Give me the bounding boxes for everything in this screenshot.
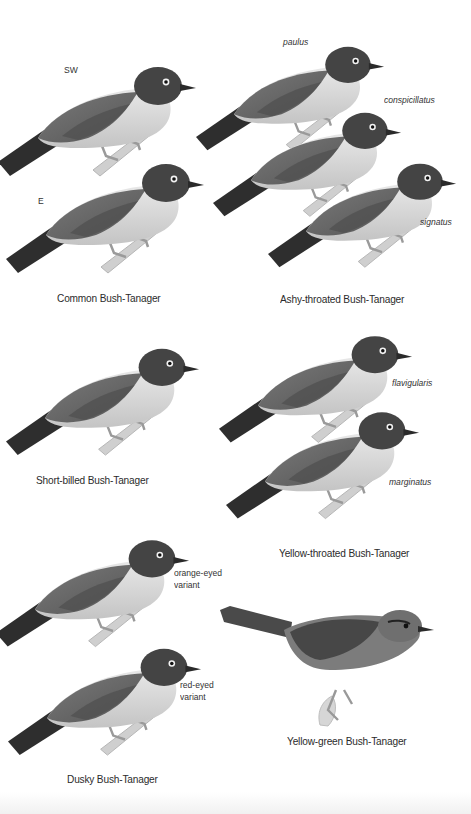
bird-illustration-dusky-red-eyed xyxy=(8,636,203,766)
page-bottom-edge xyxy=(0,792,471,814)
species-caption-ashy-throated: Ashy-throated Bush-Tanager xyxy=(280,293,404,305)
label-e: E xyxy=(38,195,44,206)
label-red-eyed-variant: red-eyed variant xyxy=(180,679,214,703)
label-orange-eyed-variant: orange-eyed variant xyxy=(174,567,222,591)
label-signatus: signatus xyxy=(420,216,452,227)
bird-illustration-ashy-signatus xyxy=(268,152,458,277)
species-caption-short-billed: Short-billed Bush-Tanager xyxy=(36,474,149,486)
bird-illustration-yellow-green xyxy=(220,600,435,725)
bird-illustration-common-e xyxy=(6,155,206,280)
label-flavigularis: flavigularis xyxy=(392,377,432,388)
bird-illustration-short-billed xyxy=(6,336,201,466)
species-caption-yellow-green: Yellow-green Bush-Tanager xyxy=(287,735,407,747)
label-paulus: paulus xyxy=(283,36,308,47)
label-marginatus: marginatus xyxy=(389,476,431,487)
species-caption-common: Common Bush-Tanager xyxy=(57,292,161,304)
species-caption-dusky: Dusky Bush-Tanager xyxy=(67,773,158,785)
label-sw: SW xyxy=(64,64,78,75)
species-caption-yellow-throated: Yellow-throated Bush-Tanager xyxy=(279,547,409,559)
label-conspicillatus: conspicillatus xyxy=(384,94,435,105)
bird-illustration-yellow-throated-marginatus xyxy=(226,402,421,527)
